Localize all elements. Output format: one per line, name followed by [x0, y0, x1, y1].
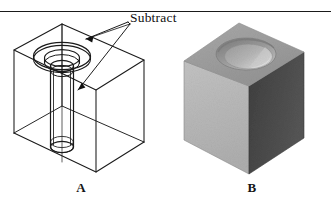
subtract-annotation-label: Subtract: [130, 10, 177, 26]
panel-b-shaded-solid: [165, 14, 331, 179]
panel-a-wireframe: [0, 14, 170, 179]
wireframe-box-with-counterbored-hole: [0, 14, 170, 179]
box-bottom-face: [14, 106, 144, 172]
box-vertical-edges: [14, 24, 144, 172]
caption-a: A: [61, 180, 101, 195]
shaded-solid-result: [165, 14, 331, 179]
figure-container: Subtract A B: [0, 0, 331, 207]
caption-b: B: [232, 180, 272, 195]
